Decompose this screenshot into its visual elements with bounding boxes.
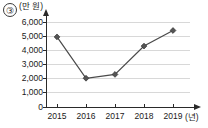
x-tick-label: 2016 xyxy=(77,112,96,121)
x-axis-tick-labels: 20152016201720182019 xyxy=(0,0,208,128)
x-tick-label: 2018 xyxy=(135,112,154,121)
chart-figure: ③ (만 원) (년) 01,0002,0003,0004,0005,0006,… xyxy=(0,0,208,128)
x-tick-label: 2019 xyxy=(164,112,183,121)
x-tick-label: 2015 xyxy=(48,112,67,121)
x-tick-label: 2017 xyxy=(106,112,125,121)
